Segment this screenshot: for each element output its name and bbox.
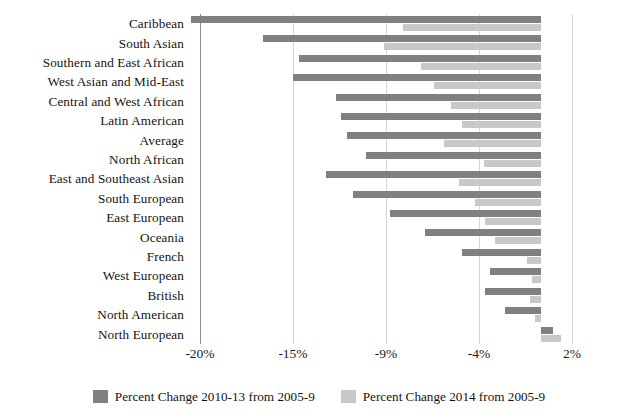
bar-segment	[462, 249, 541, 256]
category-label: Average	[0, 130, 192, 149]
category-label: Caribbean	[0, 14, 192, 33]
category-label: South European	[0, 189, 192, 208]
bar-segment	[462, 121, 541, 128]
x-tick-label: 2%	[563, 347, 581, 361]
bar-segment	[484, 160, 541, 167]
bar-row	[200, 130, 572, 149]
bar-segment	[425, 229, 541, 236]
bar-segment	[535, 315, 541, 322]
bar-segment	[347, 132, 541, 139]
bar-row	[200, 247, 572, 266]
grouped-bar-chart: CaribbeanSouth AsianSouthern and East Af…	[0, 0, 638, 415]
bar-segment	[421, 63, 541, 70]
bar-row	[200, 286, 572, 305]
bar-row	[200, 227, 572, 246]
bar-segment	[191, 16, 541, 23]
category-label: North African	[0, 150, 192, 169]
x-tick-label: -9%	[375, 347, 398, 361]
bar-row	[200, 325, 572, 344]
bar-segment	[434, 82, 541, 89]
bar-segment	[366, 152, 541, 159]
category-label: West Asian and Mid-East	[0, 72, 192, 91]
bar-row	[200, 33, 572, 52]
legend-item: Percent Change 2010-13 from 2005-9	[93, 390, 315, 403]
plot-area	[200, 14, 572, 344]
category-label: British	[0, 286, 192, 305]
bar-row	[200, 14, 572, 33]
bar-segment	[495, 237, 542, 244]
gridline	[572, 14, 573, 344]
bar-segment	[505, 307, 541, 314]
bar-segment	[384, 43, 541, 50]
bar-segment	[299, 55, 541, 62]
bar-segment	[263, 35, 541, 42]
bar-segment	[541, 327, 553, 334]
category-axis: CaribbeanSouth AsianSouthern and East Af…	[0, 14, 192, 344]
category-label: Central and West African	[0, 92, 192, 111]
bar-segment	[390, 210, 541, 217]
bar-row	[200, 53, 572, 72]
bar-row	[200, 72, 572, 91]
category-label: French	[0, 247, 192, 266]
bar-segment	[293, 74, 541, 81]
bar-segment	[341, 113, 541, 120]
bar-row	[200, 111, 572, 130]
bars-layer	[200, 14, 572, 344]
bar-row	[200, 305, 572, 324]
x-tick-label: -15%	[278, 347, 307, 361]
bar-row	[200, 266, 572, 285]
category-label: East European	[0, 208, 192, 227]
bar-row	[200, 189, 572, 208]
legend-swatch-icon	[93, 390, 108, 403]
bar-segment	[444, 140, 541, 147]
bar-row	[200, 92, 572, 111]
chart-legend: Percent Change 2010-13 from 2005-9Percen…	[0, 387, 638, 407]
bar-segment	[326, 171, 541, 178]
category-label: Oceania	[0, 227, 192, 246]
bar-segment	[451, 102, 541, 109]
bar-segment	[532, 276, 541, 283]
x-tick-label: -4%	[468, 347, 491, 361]
bar-segment	[459, 179, 541, 186]
bar-segment	[541, 335, 561, 342]
bar-segment	[336, 94, 541, 101]
bar-segment	[485, 288, 541, 295]
legend-label: Percent Change 2014 from 2005-9	[363, 390, 545, 403]
category-label: Latin American	[0, 111, 192, 130]
bar-segment	[485, 218, 541, 225]
x-tick-label: -20%	[185, 347, 214, 361]
bar-segment	[403, 24, 541, 31]
bar-segment	[530, 296, 541, 303]
category-label: North American	[0, 305, 192, 324]
legend-label: Percent Change 2010-13 from 2005-9	[115, 390, 315, 403]
legend-item: Percent Change 2014 from 2005-9	[341, 390, 545, 403]
bar-segment	[490, 268, 541, 275]
bar-row	[200, 208, 572, 227]
category-label: West European	[0, 266, 192, 285]
category-label: North European	[0, 325, 192, 344]
bar-segment	[353, 191, 541, 198]
category-label: East and Southeast Asian	[0, 169, 192, 188]
bar-row	[200, 150, 572, 169]
bar-segment	[475, 199, 541, 206]
legend-swatch-icon	[341, 390, 356, 403]
category-label: South Asian	[0, 33, 192, 52]
x-axis-tick-labels: -20%-15%-9%-4%2%	[0, 347, 638, 369]
category-label: Southern and East African	[0, 53, 192, 72]
bar-row	[200, 169, 572, 188]
bar-segment	[527, 257, 541, 264]
